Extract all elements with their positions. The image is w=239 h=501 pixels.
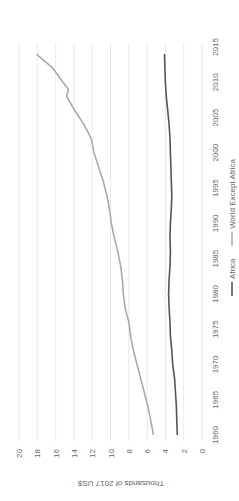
line-chart: 02468101214161820 1960196519701975198019… [0,0,239,501]
x-tick-label: 1985 [211,249,220,267]
rotated-chart: 02468101214161820 1960196519701975198019… [0,0,239,501]
series-line-africa [165,54,178,435]
y-axis-title: Thousands of 2017 US$ [77,479,164,488]
y-tick-label: 14 [70,448,79,457]
x-tick-label: 2005 [211,108,220,126]
y-tick-label: 18 [33,448,42,457]
legend-label: Africa [228,258,237,279]
y-tick-label: 6 [143,448,152,453]
series-lines [36,54,177,435]
x-tick-label: 2010 [211,73,220,91]
chart-container: 02468101214161820 1960196519701975198019… [0,0,239,501]
x-tick-label: 1965 [211,390,220,408]
y-tick-label: 16 [52,448,61,457]
y-tick-label: 4 [161,448,170,453]
legend-label: World Except Africa [228,159,237,229]
x-tick-label: 1990 [211,214,220,232]
x-tick-label: 1975 [211,320,220,338]
x-tick-label: 2000 [211,143,220,161]
y-tick-label: 12 [88,448,97,457]
legend: AfricaWorld Except Africa [228,159,237,296]
x-tick-label: 1995 [211,179,220,197]
x-tick-label: 1970 [211,355,220,373]
x-tick-label: 1960 [211,426,220,444]
y-tick-label: 0 [198,448,207,453]
x-axis: 1960196519701975198019851990199520002005… [211,38,220,444]
y-axis: 02468101214161820 [15,448,207,457]
y-tick-label: 10 [107,448,116,457]
y-tick-label: 8 [125,448,134,453]
series-line-world-except-africa [36,54,153,435]
y-tick-label: 20 [15,448,24,457]
x-tick-label: 1980 [211,284,220,302]
x-tick-label: 2015 [211,38,220,56]
y-tick-label: 2 [180,448,189,453]
